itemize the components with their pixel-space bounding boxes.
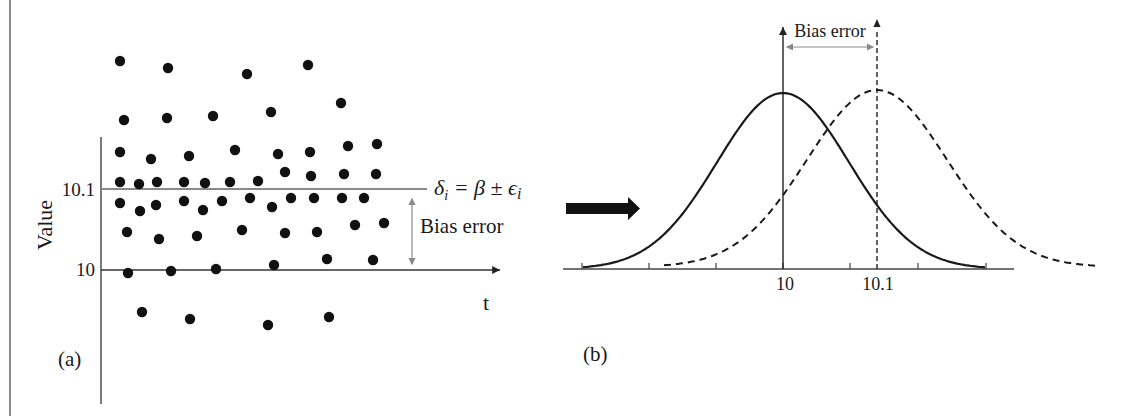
data-point [122, 227, 132, 237]
data-point [179, 177, 189, 187]
biased-distribution-curve [664, 90, 1100, 266]
bias-error-label-b: Bias error [794, 21, 865, 41]
data-point [312, 227, 322, 237]
data-point [286, 193, 296, 203]
panel-a-scatter: 10.1 10 Value t (a) Bias error δi = β ± … [32, 56, 521, 404]
data-point [280, 228, 290, 238]
data-point [115, 56, 125, 66]
data-point [154, 234, 164, 244]
y-axis-label: Value [32, 200, 57, 250]
data-point [368, 255, 378, 265]
data-point [306, 171, 316, 181]
data-point [343, 141, 353, 151]
equation-subscript: i [517, 185, 521, 202]
data-point [184, 151, 194, 161]
data-point [309, 193, 319, 203]
data-point [115, 177, 125, 187]
baseline-ticks [582, 263, 986, 269]
true-distribution-curve [583, 93, 985, 267]
data-point [115, 198, 125, 208]
data-points [115, 56, 389, 330]
bias-error-figure: 10.1 10 Value t (a) Bias error δi = β ± … [0, 0, 1134, 416]
data-point [337, 193, 347, 203]
data-point [245, 193, 255, 203]
data-point [372, 139, 382, 149]
equation-rhs: = β ± ϵ [448, 175, 518, 200]
data-point [123, 268, 133, 278]
data-point [137, 307, 147, 317]
data-point [152, 177, 162, 187]
biased-mean-arrowhead [874, 19, 881, 27]
data-point [253, 176, 263, 186]
data-point [336, 98, 346, 108]
data-point [273, 149, 283, 159]
data-point [135, 206, 145, 216]
data-point [230, 145, 240, 155]
data-point [305, 147, 315, 157]
data-point [225, 177, 235, 187]
data-point [237, 225, 247, 235]
data-point [119, 115, 129, 125]
data-point [322, 254, 332, 264]
data-point [134, 179, 144, 189]
transition-arrow-icon [566, 197, 640, 220]
data-point [192, 231, 202, 241]
bias-error-label-a: Bias error [420, 214, 503, 238]
data-point [266, 107, 276, 117]
data-point [151, 200, 161, 210]
data-point [115, 147, 125, 157]
data-point [211, 264, 221, 274]
panel-b-distributions: Bias error 10 10.1 (b) [563, 19, 1100, 366]
tick-label-10: 10 [76, 259, 95, 280]
data-point [324, 312, 334, 322]
data-point [208, 111, 218, 121]
data-point [269, 260, 279, 270]
data-point [350, 220, 360, 230]
data-point [371, 169, 381, 179]
data-point [379, 218, 389, 228]
data-point [198, 205, 208, 215]
tick-label-10-1-b: 10.1 [862, 274, 894, 294]
equation: δi = β ± ϵi [434, 175, 521, 203]
data-point [146, 154, 156, 164]
data-point [339, 169, 349, 179]
data-point [200, 178, 210, 188]
data-point [359, 193, 369, 203]
panel-a-label: (a) [58, 347, 81, 371]
data-point [267, 202, 277, 212]
data-point [166, 266, 176, 276]
panel-b-label: (b) [583, 342, 608, 366]
data-point [263, 320, 273, 330]
data-point [217, 196, 227, 206]
tick-label-10-b: 10 [776, 274, 794, 294]
data-point [280, 167, 290, 177]
data-point [185, 314, 195, 324]
data-point [163, 63, 173, 73]
data-point [162, 113, 172, 123]
data-point [242, 69, 252, 79]
data-point [303, 60, 313, 70]
tick-label-10-1: 10.1 [62, 179, 95, 200]
x-axis-label: t [483, 290, 489, 315]
data-point [179, 196, 189, 206]
